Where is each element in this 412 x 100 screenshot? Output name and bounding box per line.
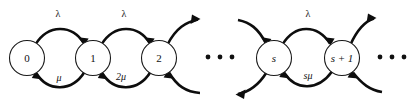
edge-next-to-2-curve — [169, 73, 200, 94]
state-node-2[interactable]: 2 — [142, 41, 177, 76]
rate-label-mu: μ — [55, 72, 61, 83]
edge-1-to-2-curve — [102, 29, 151, 45]
forward-transition-arcs — [36, 14, 377, 46]
state-transition-diagram: 0 1 2 s s + 1 λ λ λ μ — [0, 0, 412, 100]
edge-2-to-next-arrowhead — [191, 15, 201, 25]
edge-s-to-prev-arrowhead — [236, 90, 246, 100]
diagram-canvas: 0 1 2 s s + 1 λ λ λ μ — [0, 0, 412, 100]
state-node-s-plus-1-label: s + 1 — [331, 52, 354, 64]
ellipsis-right — [378, 55, 407, 60]
backward-transition-arcs — [32, 71, 382, 100]
rate-label-2mu: 2μ — [116, 71, 126, 82]
edge-s-to-s1 — [283, 29, 335, 46]
ellipsis-right-dot-2 — [390, 55, 395, 60]
edge-2-to-next — [168, 15, 201, 45]
rate-label-s-mu: sμ — [304, 70, 313, 81]
ellipsis-right-dot-3 — [402, 55, 407, 60]
ellipsis-middle-dot-1 — [206, 55, 211, 60]
edge-s1-to-next — [351, 14, 377, 45]
edge-2-to-next-curve — [168, 20, 199, 45]
edge-s-to-prev — [236, 73, 267, 100]
edge-1-to-2 — [102, 29, 155, 46]
rate-label-lambda-1: λ — [122, 8, 127, 19]
edge-0-to-1-curve — [36, 29, 85, 45]
state-node-0[interactable]: 0 — [10, 41, 45, 76]
edge-next-to-2 — [164, 71, 200, 94]
edge-2-to-1-curve — [103, 72, 151, 87]
edge-s1-to-next-curve — [351, 19, 375, 45]
edge-s1-to-next-arrowhead — [367, 14, 377, 24]
ellipsis-middle-dot-2 — [218, 55, 223, 60]
edge-next-to-s1-curve — [353, 73, 382, 93]
ellipsis-middle — [206, 55, 235, 60]
rate-label-lambda-0: λ — [56, 8, 61, 19]
state-node-s[interactable]: s — [257, 41, 292, 76]
edge-next-to-s1 — [348, 71, 382, 93]
state-node-0-label: 0 — [24, 52, 30, 64]
state-node-2-label: 2 — [156, 52, 162, 64]
ellipsis-right-dot-1 — [378, 55, 383, 60]
edge-prev-to-s-curve — [238, 20, 266, 44]
state-node-s-plus-1[interactable]: s + 1 — [325, 41, 360, 76]
state-node-1[interactable]: 1 — [76, 41, 111, 76]
edge-s-to-prev-curve — [238, 73, 267, 95]
ellipsis-middle-dot-3 — [230, 55, 235, 60]
rate-label-lambda-s: λ — [306, 8, 311, 19]
state-node-s-label: s — [272, 52, 276, 64]
edge-0-to-1 — [36, 29, 89, 46]
edge-s-to-s1-curve — [283, 29, 331, 45]
state-node-1-label: 1 — [90, 52, 96, 64]
